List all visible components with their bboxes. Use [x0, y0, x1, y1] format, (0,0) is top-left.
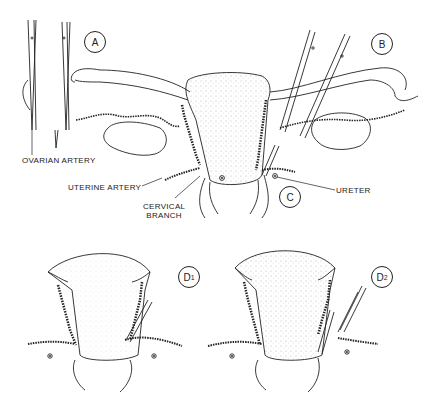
d1-uterus-figure [28, 254, 182, 392]
panel-label-b: B [371, 33, 393, 55]
panel-d1-subscript: 1 [191, 274, 195, 281]
panel-d1-text: D [183, 272, 190, 283]
panel-c-text: C [286, 192, 293, 203]
label-cervical-branch: CERVICAL BRANCH [143, 202, 185, 220]
cervical-branch-line1: CERVICAL [143, 202, 185, 211]
panel-label-c: C [279, 186, 301, 208]
panel-label-d1: D1 [178, 266, 200, 288]
clamps-a [23, 20, 70, 148]
panel-label-d2: D2 [371, 266, 393, 288]
d2-uterus-figure [208, 251, 378, 392]
cervical-branch-line2: BRANCH [143, 211, 185, 220]
panel-label-a: A [84, 31, 106, 53]
panel-a-text: A [92, 37, 99, 48]
label-ovarian-artery: OVARIAN ARTERY [22, 156, 96, 165]
top-uterus-figure [71, 68, 418, 218]
label-ureter: URETER [336, 186, 371, 195]
label-uterine-artery: UTERINE ARTERY [68, 183, 141, 192]
panel-b-text: B [379, 39, 386, 50]
panel-d2-text: D [376, 272, 383, 283]
surgical-illustration [0, 0, 433, 408]
clamps-b [262, 30, 350, 176]
panel-d2-subscript: 2 [384, 274, 388, 281]
